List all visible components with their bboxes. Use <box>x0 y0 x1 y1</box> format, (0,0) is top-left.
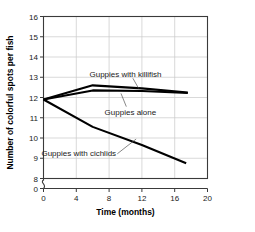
x-tick-label: 8 <box>107 194 112 203</box>
series-annotation: Guppies with killifish <box>89 70 161 79</box>
y-tick-label-zero: 0 <box>34 185 39 194</box>
y-tick-label: 11 <box>30 114 39 123</box>
x-tick-label: 16 <box>170 194 179 203</box>
series-annotation: Guppies alone <box>105 108 157 117</box>
series-annotation: Guppies with cichlids <box>41 149 116 158</box>
y-tick-label: 13 <box>29 73 38 82</box>
x-axis-title: Time (months) <box>96 207 155 217</box>
y-tick-label: 10 <box>29 134 38 143</box>
data-line <box>44 90 188 99</box>
y-axis-break-symbol <box>42 179 207 189</box>
x-axis-tick-labels: 048121620 <box>41 194 212 203</box>
y-axis-title: Number of colorful spots per fish <box>5 35 15 169</box>
y-tick-label: 15 <box>29 33 38 42</box>
x-tick-label: 0 <box>41 194 46 203</box>
y-tick-label: 12 <box>29 94 38 103</box>
tick-marks <box>40 17 208 193</box>
y-tick-label: 8 <box>34 175 39 184</box>
y-tick-label: 14 <box>29 53 38 62</box>
y-tick-label: 9 <box>34 154 39 163</box>
chart-container: 89101112131415160 048121620 Guppies with… <box>0 0 255 232</box>
spots-per-fish-line-chart: 89101112131415160 048121620 Guppies with… <box>0 0 255 232</box>
x-tick-label: 12 <box>137 194 146 203</box>
y-axis-tick-labels: 89101112131415160 <box>29 13 38 194</box>
x-tick-label: 4 <box>74 194 79 203</box>
x-tick-label: 20 <box>203 194 212 203</box>
y-tick-label: 16 <box>29 13 38 22</box>
